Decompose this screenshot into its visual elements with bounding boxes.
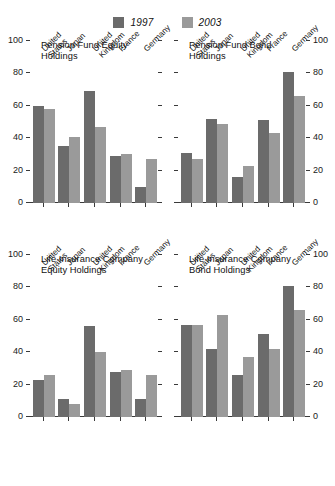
y-axis-tick: [158, 416, 162, 417]
bar-2003: [243, 357, 254, 417]
bar-1997: [58, 399, 69, 417]
bar-1997: [283, 72, 294, 203]
plot-area: 020406080100United StatesJapanUnited Kin…: [178, 255, 306, 417]
y-axis-tick-label: 60: [313, 101, 323, 110]
x-axis-tick: [145, 203, 146, 207]
y-axis-tick: [158, 105, 162, 106]
x-axis-tick: [242, 417, 243, 421]
x-axis-tick: [120, 203, 121, 207]
x-axis-tick: [268, 203, 269, 207]
y-axis-tick-label: 100: [8, 250, 23, 259]
bar-1997: [206, 119, 217, 203]
bar-2003: [217, 124, 228, 203]
panel-pension-fund-bond-holdings: Pension Fund Bond Holdings020406080100Un…: [167, 36, 335, 248]
y-axis-tick-label: 20: [13, 380, 23, 389]
bar-1997: [58, 146, 69, 203]
bar-series-container: [178, 41, 306, 203]
bar-1997: [283, 286, 294, 417]
y-axis-tick: [158, 170, 162, 171]
bar-2003: [44, 375, 55, 417]
y-axis-tick-label: 0: [18, 412, 23, 421]
legend-2003: 2003: [182, 17, 222, 28]
y-axis-tick-label: 80: [313, 68, 323, 77]
bar-group: [206, 255, 228, 417]
plot-area: 020406080100United StatesJapanUnited Kin…: [30, 41, 158, 203]
x-axis-tick: [145, 417, 146, 421]
y-axis-tick-label: 60: [13, 101, 23, 110]
legend-swatch-icon: [182, 17, 193, 28]
bar-group: [58, 41, 80, 203]
y-axis-tick-label: 20: [13, 166, 23, 175]
y-axis-tick-label: 100: [313, 250, 328, 259]
y-axis-tick: [306, 351, 310, 352]
y-axis-tick: [306, 384, 310, 385]
legend-1997: 1997: [113, 17, 153, 28]
x-axis-tick: [94, 417, 95, 421]
y-axis-tick-label: 80: [13, 68, 23, 77]
y-axis-tick-label: 40: [13, 133, 23, 142]
x-axis-tick: [43, 203, 44, 207]
y-axis-tick-label: 80: [13, 282, 23, 291]
bar-1997: [181, 153, 192, 203]
bar-1997: [84, 91, 95, 203]
legend-label: 2003: [199, 17, 222, 28]
y-axis-tick: [306, 137, 310, 138]
bar-2003: [121, 154, 132, 203]
bar-2003: [146, 159, 157, 203]
bar-group: [135, 255, 157, 417]
y-axis-tick: [158, 286, 162, 287]
bar-2003: [146, 375, 157, 417]
figure-four-panel-bar-charts: 19972003 Pension Fund Equity Holdings020…: [0, 0, 335, 486]
bar-series-container: [30, 41, 158, 203]
x-axis-tick: [68, 203, 69, 207]
y-axis-tick: [306, 72, 310, 73]
y-axis-tick: [158, 384, 162, 385]
bar-group: [232, 41, 254, 203]
bar-1997: [84, 326, 95, 417]
bar-2003: [192, 159, 203, 203]
y-axis-tick-label: 60: [13, 315, 23, 324]
y-axis-tick-label: 60: [313, 315, 323, 324]
bar-group: [232, 255, 254, 417]
y-axis-tick: [306, 286, 310, 287]
x-axis-tick: [216, 203, 217, 207]
bar-series-container: [178, 255, 306, 417]
bar-1997: [135, 399, 146, 417]
bar-group: [33, 41, 55, 203]
bar-2003: [294, 96, 305, 203]
bar-1997: [110, 372, 121, 417]
bar-group: [84, 41, 106, 203]
bar-group: [84, 255, 106, 417]
bar-2003: [192, 325, 203, 417]
bar-2003: [44, 109, 55, 203]
y-axis-tick-label: 20: [313, 166, 323, 175]
bar-group: [110, 41, 132, 203]
x-axis-tick: [242, 203, 243, 207]
bar-1997: [232, 177, 243, 203]
y-axis-tick-label: 40: [313, 347, 323, 356]
y-axis-tick: [158, 72, 162, 73]
plot-area: 020406080100United StatesJapanUnited Kin…: [178, 41, 306, 203]
panel-life-insurance-bond-holdings: Life Insurance Company Bond Holdings0204…: [167, 250, 335, 480]
y-axis-tick: [306, 416, 310, 417]
bar-1997: [135, 187, 146, 203]
plot-area: 020406080100United StatesJapanUnited Kin…: [30, 255, 158, 417]
y-axis-tick: [306, 170, 310, 171]
y-axis-tick-label: 100: [8, 36, 23, 45]
panel-pension-fund-equity-holdings: Pension Fund Equity Holdings020406080100…: [0, 36, 168, 248]
bar-2003: [121, 370, 132, 417]
bar-2003: [217, 315, 228, 417]
y-axis-tick: [158, 351, 162, 352]
x-axis-tick: [68, 417, 69, 421]
bar-series-container: [30, 255, 158, 417]
y-axis-tick-label: 40: [313, 133, 323, 142]
y-axis-tick: [158, 202, 162, 203]
y-axis-tick: [158, 137, 162, 138]
bar-group: [110, 255, 132, 417]
bar-1997: [33, 106, 44, 203]
y-axis-tick-label: 100: [313, 36, 328, 45]
x-axis-tick: [191, 203, 192, 207]
bar-2003: [269, 133, 280, 203]
bar-group: [206, 41, 228, 203]
bar-group: [283, 255, 305, 417]
